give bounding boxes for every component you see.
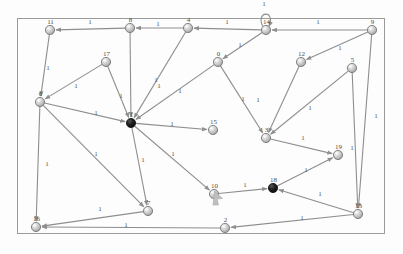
edge-1-7[interactable] <box>132 128 147 206</box>
edge-6-16[interactable] <box>36 107 40 221</box>
graph-node-16[interactable] <box>31 222 40 231</box>
edge-5-13[interactable] <box>352 73 358 208</box>
graph-visualization[interactable]: 1111111111111111111111111111111 11841491… <box>0 0 403 254</box>
node-label-5: 5 <box>351 56 355 64</box>
node-circle[interactable] <box>367 25 376 34</box>
graph-node-4[interactable] <box>183 23 192 32</box>
edge-4-1[interactable] <box>134 32 186 118</box>
edge-weight-label: 1 <box>178 87 182 95</box>
node-label-18: 18 <box>270 176 278 184</box>
node-circle[interactable] <box>353 209 362 218</box>
edge-8-1[interactable] <box>130 33 131 117</box>
node-circle[interactable] <box>101 57 110 66</box>
edge-13-18[interactable] <box>279 190 354 213</box>
graph-node-3[interactable] <box>261 133 270 142</box>
node-label-8: 8 <box>129 16 133 24</box>
edge-9-13[interactable] <box>358 35 371 208</box>
node-specular-highlight <box>211 191 214 194</box>
node-circle[interactable] <box>261 133 270 142</box>
edge-17-1[interactable] <box>108 66 129 117</box>
graph-node-0[interactable] <box>213 57 222 66</box>
edge-14-4[interactable] <box>194 28 261 30</box>
edge-weight-label: 1 <box>88 18 92 26</box>
node-specular-highlight <box>222 225 225 228</box>
node-specular-highlight <box>103 59 106 62</box>
edge-weight-label: 1 <box>316 18 320 26</box>
graph-node-15[interactable] <box>208 125 217 134</box>
edge-weight-label: 1 <box>243 181 247 189</box>
edge-weight-label: 1 <box>308 104 312 112</box>
node-specular-highlight <box>263 135 266 138</box>
node-circle[interactable] <box>31 222 40 231</box>
plot-border <box>18 19 385 234</box>
graph-node-8[interactable] <box>125 23 134 32</box>
edge-weight-label: 1 <box>338 44 342 52</box>
node-specular-highlight <box>185 25 188 28</box>
node-circle[interactable] <box>268 183 277 192</box>
node-label-13: 13 <box>355 202 363 210</box>
node-circle[interactable] <box>143 206 152 215</box>
edge-12-3[interactable] <box>269 66 300 132</box>
edge-1-10[interactable] <box>134 126 209 190</box>
node-circle[interactable] <box>213 57 222 66</box>
graph-node-19[interactable] <box>333 150 342 159</box>
edge-weight-label: 1 <box>262 0 266 8</box>
node-specular-highlight <box>47 27 50 30</box>
node-circle[interactable] <box>296 57 305 66</box>
graph-node-7[interactable] <box>143 206 152 215</box>
node-label-4: 4 <box>187 16 191 24</box>
node-circle[interactable] <box>333 150 342 159</box>
edge-8-11[interactable] <box>56 28 125 30</box>
node-circle[interactable] <box>261 25 270 34</box>
nodes-layer[interactable] <box>31 23 376 232</box>
node-label-3: 3 <box>265 126 269 134</box>
node-label-11: 11 <box>47 18 54 26</box>
node-circle[interactable] <box>45 25 54 34</box>
edge-weight-label: 1 <box>141 156 145 164</box>
edge-weight-label: 1 <box>45 160 49 168</box>
edge-7-16[interactable] <box>42 212 144 227</box>
edge-weight-label: 1 <box>119 92 123 100</box>
graph-node-6[interactable] <box>35 97 44 106</box>
node-specular-highlight <box>37 99 40 102</box>
graph-node-13[interactable] <box>353 209 362 218</box>
graph-node-11[interactable] <box>45 25 54 34</box>
edge-weight-label: 1 <box>94 109 98 117</box>
node-specular-highlight <box>263 27 266 30</box>
edge-2-16[interactable] <box>42 227 220 228</box>
node-circle[interactable] <box>35 97 44 106</box>
node-circle[interactable] <box>208 125 217 134</box>
edge-13-2[interactable] <box>231 214 353 227</box>
node-circle[interactable] <box>126 118 135 127</box>
node-circle[interactable] <box>183 23 192 32</box>
graph-node-2[interactable] <box>220 223 229 232</box>
node-label-19: 19 <box>335 143 343 151</box>
node-circle[interactable] <box>125 23 134 32</box>
edge-9-12[interactable] <box>306 32 367 60</box>
edge-weight-label: 1 <box>256 96 260 104</box>
graph-node-9[interactable] <box>367 25 376 34</box>
edge-weight-label: 1 <box>241 95 245 103</box>
node-specular-highlight <box>349 65 352 68</box>
node-specular-highlight <box>33 224 36 227</box>
node-label-14: 14 <box>263 18 271 26</box>
edge-weight-label: 1 <box>74 82 78 90</box>
graph-node-1[interactable] <box>126 118 135 127</box>
node-circle[interactable] <box>220 223 229 232</box>
edge-weight-label: 1 <box>94 150 98 158</box>
edge-weight-label: 1 <box>318 190 322 198</box>
edge-10-18[interactable] <box>219 189 267 194</box>
graph-node-17[interactable] <box>101 57 110 66</box>
graph-node-14[interactable] <box>261 25 270 34</box>
node-label-0: 0 <box>217 50 221 58</box>
edge-14-0[interactable] <box>223 33 262 59</box>
node-circle[interactable] <box>347 63 356 72</box>
node-labels-layer: 118414917012561153191018716213 <box>33 16 375 224</box>
node-label-1: 1 <box>130 111 134 119</box>
graph-node-5[interactable] <box>347 63 356 72</box>
graph-node-18[interactable] <box>268 183 277 192</box>
graph-node-12[interactable] <box>296 57 305 66</box>
edge-weight-label: 1 <box>238 41 242 49</box>
node-specular-highlight <box>215 59 218 62</box>
edge-0-1[interactable] <box>136 65 214 120</box>
